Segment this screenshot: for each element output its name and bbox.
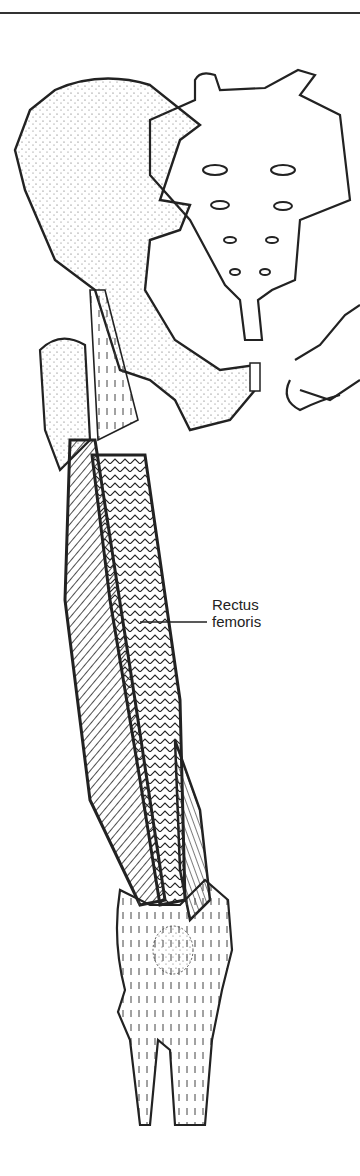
patella — [153, 926, 193, 974]
pubic-symphysis — [250, 363, 260, 391]
label-line-2: femoris — [212, 613, 261, 630]
knee-joint — [117, 880, 232, 1125]
label-line-1: Rectus — [212, 596, 261, 613]
rectus-femoris-label: Rectus femoris — [212, 596, 261, 630]
thigh-anatomy-illustration — [0, 0, 360, 1176]
